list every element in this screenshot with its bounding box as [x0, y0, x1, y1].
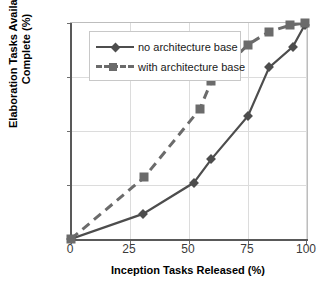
x-tick-label-25: 25 [109, 242, 149, 256]
x-tick-label-100: 100 [286, 242, 326, 256]
x-tick-label-50: 50 [168, 242, 208, 256]
x-axis-line [71, 239, 308, 241]
legend-label-0: no architecture base [138, 41, 238, 53]
x-tick-label-75: 75 [227, 242, 267, 256]
data-point [288, 42, 298, 52]
y-axis-title-line2: Complete (%) [20, 0, 33, 155]
data-point [67, 235, 76, 244]
data-point [243, 111, 253, 121]
data-point [195, 105, 204, 114]
x-tick-label-0: 0 [50, 242, 90, 256]
legend-item-with-architecture-base: with architecture base [96, 57, 234, 77]
data-point [244, 40, 253, 49]
data-point [300, 19, 309, 28]
data-point [140, 173, 149, 182]
data-point [206, 154, 216, 164]
legend: no architecture base with architecture b… [89, 31, 241, 81]
legend-swatch-solid-diamond-icon [96, 41, 134, 53]
data-point [138, 209, 148, 219]
data-point [189, 178, 199, 188]
legend-swatch-dashed-square-icon [96, 61, 134, 73]
data-point [264, 62, 274, 72]
data-point [286, 21, 295, 30]
line-chart: Elaboration Tasks Available to Complete … [0, 0, 332, 292]
legend-item-no-architecture-base: no architecture base [96, 37, 234, 57]
data-point [265, 27, 274, 36]
plot-area: no architecture base with architecture b… [70, 22, 308, 240]
y-axis-title-line1: Elaboration Tasks Available to [7, 0, 19, 128]
x-axis-title: Inception Tasks Released (%) [68, 264, 308, 276]
y-axis-title: Elaboration Tasks Available to Complete … [7, 0, 33, 155]
legend-label-1: with architecture base [138, 61, 245, 73]
